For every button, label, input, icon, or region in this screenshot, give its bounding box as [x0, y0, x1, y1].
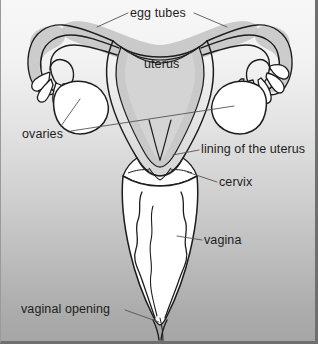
label-vaginal-opening: vaginal opening — [21, 303, 110, 316]
label-lining-of-the-uterus: lining of the uterus — [201, 143, 305, 156]
label-ovaries: ovaries — [22, 128, 63, 141]
leader-egg-tubes-right — [194, 13, 227, 27]
label-cervix: cervix — [219, 176, 252, 189]
anatomy-diagram-figure: egg tubes uterus ovaries lining of the u… — [0, 0, 318, 344]
label-vagina: vagina — [204, 234, 241, 247]
vagina-shape — [122, 176, 197, 325]
label-egg-tubes: egg tubes — [130, 7, 186, 20]
label-uterus: uterus — [144, 58, 179, 71]
ovary-right — [212, 81, 267, 134]
leader-egg-tubes-left — [97, 13, 128, 27]
anatomy-illustration — [1, 0, 318, 344]
